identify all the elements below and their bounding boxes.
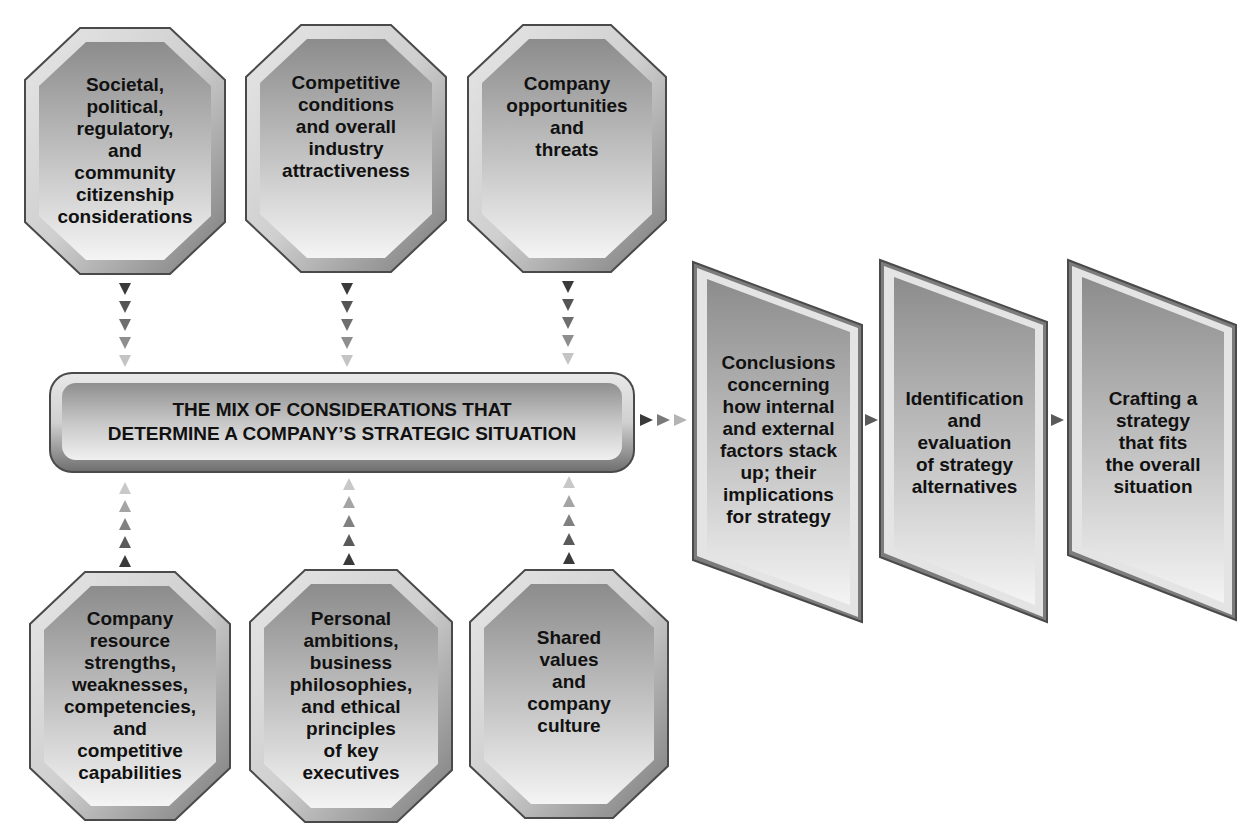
right-arrow-panel1-to-panel2 bbox=[865, 414, 878, 426]
process-step-conclusions-label: Conclusions concerning how internal and … bbox=[707, 345, 850, 535]
right-arrow-panel2-to-panel3 bbox=[1051, 414, 1064, 426]
top-factor-opportunities-label: Company opportunities and threats bbox=[482, 39, 652, 195]
down-arrows-2 bbox=[341, 283, 353, 367]
down-arrows-3 bbox=[562, 281, 574, 365]
up-arrows-1 bbox=[119, 482, 131, 567]
process-step-crafting-label: Crafting a strategy that fits the overal… bbox=[1082, 383, 1224, 503]
top-factor-societal-label: Societal, political, regulatory, and com… bbox=[39, 42, 211, 260]
process-step-identification-label: Identification and evaluation of strateg… bbox=[894, 383, 1035, 503]
bottom-factor-resources-label: Company resource strengths, weaknesses, … bbox=[44, 586, 216, 806]
bottom-factor-personal-label: Personal ambitions, business philosophie… bbox=[264, 584, 438, 808]
top-factor-competitive-label: Competitive conditions and overall indus… bbox=[260, 39, 432, 215]
bottom-factor-shared-values-label: Shared values and company culture bbox=[484, 584, 654, 780]
right-arrows-bar-to-panel bbox=[640, 414, 687, 426]
down-arrows-1 bbox=[119, 283, 131, 367]
up-arrows-2 bbox=[343, 478, 355, 565]
up-arrows-3 bbox=[563, 476, 575, 564]
center-bar-label: THE MIX OF CONSIDERATIONS THAT DETERMINE… bbox=[62, 383, 622, 460]
